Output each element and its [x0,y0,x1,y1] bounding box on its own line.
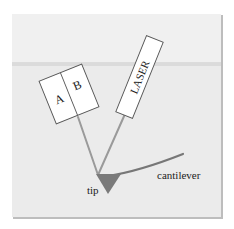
tip-label: tip [87,184,99,196]
panel-upper-region [12,14,221,63]
cantilever-label: cantilever [157,169,201,181]
horizon-band [12,62,221,66]
afm-diagram: A B LASER tip cantilever [0,0,234,229]
